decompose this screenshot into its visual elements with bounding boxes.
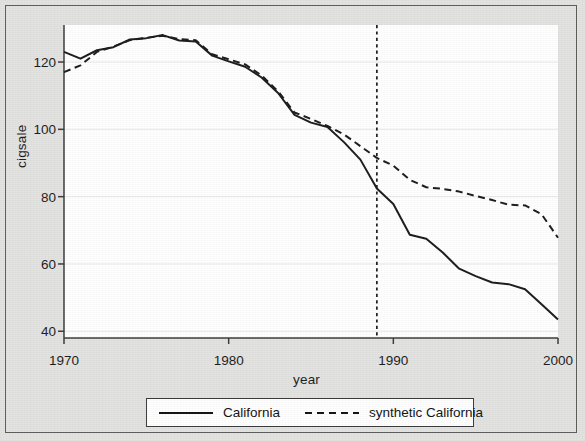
- y-tick-label-120: 120: [22, 55, 56, 70]
- y-tick-label-100: 100: [22, 122, 56, 137]
- figure-page: cigsale year 1970198019902000 4060801001…: [0, 0, 585, 441]
- x-tick-label-1970: 1970: [49, 353, 79, 368]
- x-axis-title: year: [293, 372, 320, 387]
- y-tick-label-80: 80: [22, 189, 56, 204]
- x-tick-label-2000: 2000: [543, 353, 573, 368]
- chart-legend: California synthetic California: [146, 398, 474, 427]
- solid-line-key: [158, 407, 214, 419]
- x-tick-label-1990: 1990: [378, 353, 408, 368]
- dashed-line-key: [304, 407, 360, 419]
- legend-entry-california: California: [147, 399, 280, 426]
- legend-label-synthetic-california: synthetic California: [369, 405, 483, 420]
- chart-figure: cigsale year 1970198019902000 4060801001…: [0, 0, 585, 441]
- y-tick-label-60: 60: [22, 256, 56, 271]
- x-tick-label-1980: 1980: [214, 353, 244, 368]
- y-tick-label-40: 40: [22, 324, 56, 339]
- legend-label-california: California: [223, 405, 280, 420]
- legend-entry-synthetic-california: synthetic California: [280, 399, 483, 426]
